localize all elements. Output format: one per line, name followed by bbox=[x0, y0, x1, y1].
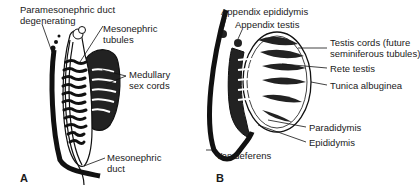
panel-letter-a: A bbox=[20, 172, 28, 184]
label-paradidymis: Paradidymis bbox=[309, 122, 361, 133]
label-line: duct bbox=[107, 163, 161, 174]
label-line: Testis cords (future bbox=[330, 37, 420, 48]
label-line: Paramesonephric duct bbox=[20, 4, 115, 15]
label-line: Mesonephric bbox=[107, 152, 161, 163]
label-appendix-testis: Appendix testis bbox=[235, 19, 299, 30]
label-mesonephric-tubules: Mesonephric tubules bbox=[103, 23, 157, 45]
label-epididymis: Epididymis bbox=[309, 137, 355, 148]
label-line: Mesonephric bbox=[103, 23, 157, 34]
label-line: Medullary bbox=[129, 69, 170, 80]
label-line: degenerating bbox=[20, 15, 115, 26]
panel-letter-b: B bbox=[216, 172, 224, 184]
label-line: seminiferous tubules) bbox=[330, 48, 420, 59]
label-testis-cords: Testis cords (future seminiferous tubule… bbox=[330, 37, 420, 59]
label-line: tubules bbox=[103, 34, 157, 45]
label-line: sex cords bbox=[129, 80, 170, 91]
label-vas-deferens: Vas deferens bbox=[216, 150, 271, 161]
label-tunica-albuginea: Tunica albuginea bbox=[330, 80, 402, 91]
label-rete-testis: Rete testis bbox=[330, 63, 375, 74]
label-paramesonephric-duct: Paramesonephric duct degenerating bbox=[20, 4, 115, 26]
label-medullary-sex-cords: Medullary sex cords bbox=[129, 69, 170, 91]
label-mesonephric-duct: Mesonephric duct bbox=[107, 152, 161, 174]
label-appendix-epididymis: Appendix epididymis bbox=[221, 6, 308, 17]
